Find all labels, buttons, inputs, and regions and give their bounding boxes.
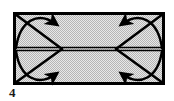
origami-figure: 4: [0, 0, 174, 101]
figure-caption: 4: [9, 86, 16, 99]
origami-diagram-svg: [0, 0, 174, 101]
paper-rectangle: [15, 14, 164, 84]
